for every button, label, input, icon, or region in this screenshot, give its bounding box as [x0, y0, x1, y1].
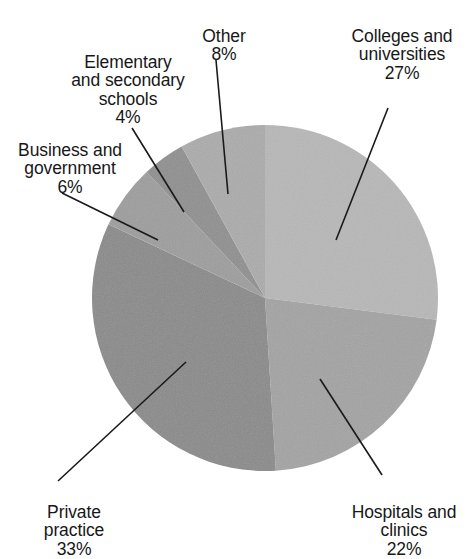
slice-label-percent: 6%: [2, 178, 138, 197]
slice-label-percent: 27%: [330, 64, 474, 83]
pie-slice-group: [92, 125, 438, 471]
slice-label-private-practice: Private practice 33%: [14, 484, 134, 559]
slice-label-name: Elementary and secondary schools: [71, 52, 185, 109]
slice-label-percent: 33%: [14, 540, 134, 559]
slice-label-name: Other: [202, 26, 245, 46]
slice-label-name: Colleges and universities: [352, 26, 453, 65]
slice-label-colleges-and-universities: Colleges and universities 27%: [330, 8, 474, 101]
slice-label-hospitals-and-clinics: Hospitals and clinics 22%: [334, 484, 474, 559]
slice-label-percent: 22%: [334, 540, 474, 559]
slice-label-name: Private practice: [44, 502, 104, 541]
slice-label-name: Hospitals and clinics: [352, 502, 457, 541]
slice-label-name: Business and government: [18, 140, 122, 179]
pie-slice: [265, 298, 437, 471]
slice-label-business-and-government: Business and government 6%: [2, 122, 138, 215]
pie-slice: [265, 125, 438, 320]
